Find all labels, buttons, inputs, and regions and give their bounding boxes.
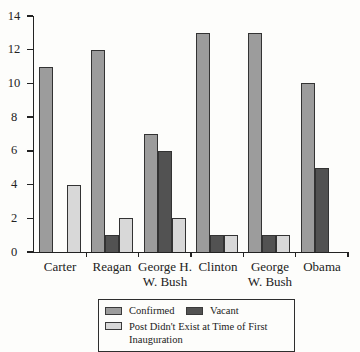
bar-confirmed-carter xyxy=(39,67,53,252)
x-tick-2 xyxy=(138,252,140,257)
legend: Confirmed Vacant Post Didn't Exist at Ti… xyxy=(98,299,295,352)
bar-group-george xyxy=(243,16,295,252)
legend-swatch-confirmed xyxy=(105,307,122,315)
legend-row-1: Confirmed Vacant xyxy=(105,304,288,317)
bar-vacant-reagan xyxy=(105,235,119,252)
x-tick-4 xyxy=(243,252,245,257)
legend-label-vacant: Vacant xyxy=(210,304,239,317)
y-tick-label-2: 2 xyxy=(1,212,27,225)
bar-confirmed-george-h- xyxy=(144,134,158,252)
y-tick-4 xyxy=(27,184,33,186)
y-tick-label-10: 10 xyxy=(1,77,27,90)
bar-group-reagan xyxy=(86,16,138,252)
x-axis-labels: CarterReaganGeorge H. W. BushClintonGeor… xyxy=(34,259,348,289)
legend-swatch-post-didnt-exist xyxy=(105,322,122,330)
bar-post-didnt-exist-carter xyxy=(67,185,81,252)
legend-label-post-didnt-exist: Post Didn't Exist at Time of First Inaug… xyxy=(129,320,287,346)
legend-swatch-vacant xyxy=(186,307,203,315)
y-tick-label-14: 14 xyxy=(1,10,27,23)
bar-post-didnt-exist-clinton xyxy=(224,235,238,252)
y-tick-8 xyxy=(27,116,33,118)
bar-vacant-obama xyxy=(315,168,329,252)
y-tick-label-4: 4 xyxy=(1,178,27,191)
bar-post-didnt-exist-reagan xyxy=(119,218,133,252)
y-tick-label-8: 8 xyxy=(1,111,27,124)
y-tick-label-6: 6 xyxy=(1,144,27,157)
x-tick-6 xyxy=(347,252,349,257)
y-tick-6 xyxy=(27,150,33,152)
y-tick-2 xyxy=(27,218,33,220)
bar-group-george-h- xyxy=(139,16,191,252)
bar-group-carter xyxy=(34,16,86,252)
bar-confirmed-clinton xyxy=(196,33,210,252)
x-tick-3 xyxy=(190,252,192,257)
bar-group-obama xyxy=(296,16,348,252)
x-label-george: George W. Bush xyxy=(244,259,296,289)
x-tick-5 xyxy=(295,252,297,257)
bar-vacant-george xyxy=(262,235,276,252)
bar-confirmed-reagan xyxy=(91,50,105,252)
plot-area: CarterReaganGeorge H. W. BushClintonGeor… xyxy=(33,16,348,253)
y-tick-12 xyxy=(27,49,33,51)
x-label-clinton: Clinton xyxy=(192,259,244,289)
x-tick-1 xyxy=(86,252,88,257)
x-label-reagan: Reagan xyxy=(86,259,138,289)
legend-row-2: Post Didn't Exist at Time of First Inaug… xyxy=(105,320,288,346)
y-tick-label-0: 0 xyxy=(1,246,27,259)
x-label-carter: Carter xyxy=(34,259,86,289)
bar-chart-figure: CarterReaganGeorge H. W. BushClintonGeor… xyxy=(0,0,360,352)
y-tick-14 xyxy=(27,15,33,17)
x-label-george-h-: George H. W. Bush xyxy=(138,259,192,289)
bar-vacant-george-h- xyxy=(158,151,172,252)
bar-post-didnt-exist-george xyxy=(276,235,290,252)
y-tick-0 xyxy=(27,251,33,253)
bar-confirmed-george xyxy=(248,33,262,252)
bar-group-clinton xyxy=(191,16,243,252)
legend-label-confirmed: Confirmed xyxy=(129,304,186,317)
y-tick-label-12: 12 xyxy=(1,43,27,56)
bar-post-didnt-exist-george-h- xyxy=(172,218,186,252)
bar-vacant-clinton xyxy=(210,235,224,252)
y-tick-10 xyxy=(27,83,33,85)
x-label-obama: Obama xyxy=(296,259,348,289)
bar-confirmed-obama xyxy=(301,83,315,252)
bars-container xyxy=(34,16,348,252)
